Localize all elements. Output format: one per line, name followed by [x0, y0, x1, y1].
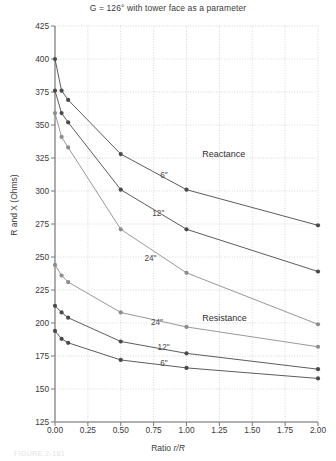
annotation-label: 12" — [152, 209, 164, 218]
plot-canvas — [0, 0, 336, 461]
series-4 — [53, 304, 320, 372]
figure-caption: FIGURE 2-181 — [14, 450, 65, 457]
annotation-label: Resistance — [202, 313, 247, 323]
annotation-label: 12" — [158, 343, 170, 352]
series-0 — [53, 57, 320, 228]
annotation-label: Reactance — [202, 149, 245, 159]
series-1 — [53, 89, 320, 274]
annotation-label: 6" — [160, 171, 167, 180]
annotation-label: 24" — [151, 318, 163, 327]
axis-lines — [51, 26, 318, 426]
annotation-label: 24" — [144, 254, 156, 263]
chart-figure: G = 126° with tower face as a parameter … — [0, 0, 336, 461]
annotation-label: 6" — [160, 359, 167, 368]
grid-lines — [55, 26, 318, 422]
